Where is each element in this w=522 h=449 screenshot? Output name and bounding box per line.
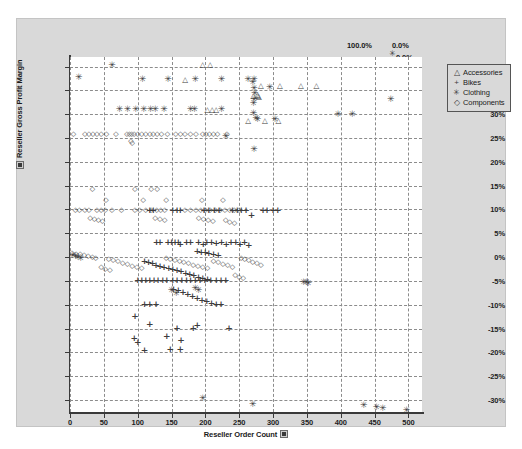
y-tick-mark bbox=[65, 352, 69, 353]
data-point-components: ◇ bbox=[154, 208, 159, 215]
data-point-bikes: + bbox=[165, 264, 173, 273]
data-point-accessories: △ bbox=[277, 81, 283, 89]
data-point-clothing: ✳ bbox=[140, 105, 148, 114]
data-point-components: ◇ bbox=[162, 208, 167, 215]
data-point-bikes: + bbox=[196, 277, 204, 286]
data-point-bikes: + bbox=[153, 238, 161, 247]
data-point-bikes: + bbox=[141, 257, 149, 266]
data-point-bikes: + bbox=[263, 207, 271, 216]
gridline-vertical bbox=[138, 57, 139, 412]
y-tick-mark bbox=[65, 233, 69, 234]
data-point-components: ◇ bbox=[119, 208, 124, 215]
data-point-clothing: ✳ bbox=[348, 110, 356, 119]
data-point-bikes: + bbox=[233, 207, 241, 216]
data-point-bikes: + bbox=[131, 334, 139, 343]
legend-item-clothing[interactable]: ✳Clothing bbox=[452, 88, 505, 98]
data-point-bikes: + bbox=[212, 301, 220, 310]
data-point-bikes: + bbox=[168, 238, 176, 247]
legend-item-accessories[interactable]: △Accessories bbox=[452, 68, 505, 78]
data-point-bikes: + bbox=[203, 238, 211, 247]
data-point-bikes: + bbox=[138, 277, 146, 286]
data-point-bikes: + bbox=[195, 238, 203, 247]
data-point-components: ◇ bbox=[139, 265, 144, 272]
data-point-clothing: ✳ bbox=[250, 84, 258, 93]
data-point-components: ◇ bbox=[237, 208, 242, 215]
data-point-clothing: ✳ bbox=[251, 88, 259, 97]
chart-frame: 100.0% 0.0% ✳ 0.0% 100.0% △△△△△△△△△△△△△△… bbox=[16, 18, 506, 427]
data-point-bikes: + bbox=[274, 207, 282, 216]
data-point-bikes: + bbox=[189, 292, 197, 301]
data-point-components: ◇ bbox=[115, 259, 120, 266]
data-point-bikes: + bbox=[187, 238, 195, 247]
data-point-components: ◇ bbox=[232, 220, 237, 227]
legend-label: Accessories bbox=[463, 68, 502, 78]
data-point-bikes: + bbox=[190, 272, 198, 281]
gridline-vertical bbox=[70, 57, 71, 412]
data-point-bikes: + bbox=[177, 336, 185, 345]
data-point-bikes: + bbox=[171, 238, 179, 247]
data-point-components: ◇ bbox=[232, 208, 237, 215]
data-point-bikes: + bbox=[154, 277, 162, 286]
data-point-bikes: + bbox=[179, 289, 187, 298]
data-point-components: ◇ bbox=[132, 208, 137, 215]
data-point-bikes: + bbox=[222, 277, 230, 286]
y-field-button-icon[interactable] bbox=[16, 161, 24, 169]
y-tick-label: -30% bbox=[461, 396, 505, 405]
legend-item-components[interactable]: ◇Components bbox=[452, 98, 505, 108]
data-point-bikes: + bbox=[237, 207, 245, 216]
data-point-bikes: + bbox=[173, 267, 181, 276]
data-point-clothing: ✳ bbox=[124, 105, 132, 114]
data-point-bikes: + bbox=[146, 320, 154, 329]
data-point-bikes: + bbox=[200, 207, 208, 216]
data-point-accessories: △ bbox=[255, 91, 261, 99]
data-point-bikes: + bbox=[186, 271, 194, 280]
data-point-accessories: △ bbox=[276, 117, 282, 125]
data-point-bikes: + bbox=[177, 268, 185, 277]
data-point-bikes: + bbox=[245, 241, 253, 250]
y-tick-mark bbox=[65, 400, 69, 401]
data-point-components: ◇ bbox=[207, 208, 212, 215]
data-point-components: ◇ bbox=[134, 264, 139, 271]
data-point-components: ◇ bbox=[159, 132, 164, 139]
data-point-clothing: ✳ bbox=[75, 73, 83, 82]
data-point-components: ◇ bbox=[177, 258, 182, 265]
data-point-accessories: △ bbox=[258, 82, 264, 90]
data-point-components: ◇ bbox=[82, 132, 87, 139]
data-point-components: ◇ bbox=[86, 253, 91, 260]
data-point-components: ◇ bbox=[120, 260, 125, 267]
data-point-bikes: + bbox=[164, 238, 172, 247]
data-point-components: ◇ bbox=[210, 218, 215, 225]
y-tick-label: 5% bbox=[461, 229, 505, 238]
data-point-clothing: ✳ bbox=[271, 115, 279, 124]
data-point-components: ◇ bbox=[125, 262, 130, 269]
data-point-components: ◇ bbox=[137, 208, 142, 215]
y-tick-label: 10% bbox=[461, 205, 505, 214]
data-point-bikes: + bbox=[217, 277, 225, 286]
data-point-components: ◇ bbox=[135, 132, 140, 139]
data-point-bikes: + bbox=[131, 312, 139, 321]
legend-item-bikes[interactable]: +Bikes bbox=[452, 78, 505, 88]
data-point-components: ◇ bbox=[132, 187, 137, 194]
data-point-clothing: ✳ bbox=[69, 250, 77, 259]
data-point-clothing: ✳ bbox=[334, 110, 342, 119]
data-point-components: ◇ bbox=[157, 216, 162, 223]
data-point-accessories: △ bbox=[314, 81, 320, 89]
data-point-components: ◇ bbox=[200, 264, 205, 271]
data-point-bikes: + bbox=[160, 263, 168, 272]
gridline-horizontal bbox=[70, 138, 422, 139]
data-point-bikes: + bbox=[169, 277, 177, 286]
x-field-button-icon[interactable] bbox=[280, 430, 288, 438]
data-point-components: ◇ bbox=[193, 208, 198, 215]
y-tick-label: 20% bbox=[461, 157, 505, 166]
data-point-clothing: ✳ bbox=[304, 279, 312, 288]
data-point-components: ◇ bbox=[163, 255, 168, 262]
data-point-components: ◇ bbox=[199, 197, 204, 204]
data-point-components: ◇ bbox=[90, 254, 95, 261]
data-point-bikes: + bbox=[199, 274, 207, 283]
data-point-clothing: ✳ bbox=[250, 95, 258, 104]
gridline-vertical bbox=[408, 57, 409, 412]
data-point-bikes: + bbox=[145, 258, 153, 267]
data-point-clothing: ✳ bbox=[360, 401, 368, 410]
data-point-bikes: + bbox=[177, 345, 185, 354]
data-point-components: ◇ bbox=[132, 132, 137, 139]
